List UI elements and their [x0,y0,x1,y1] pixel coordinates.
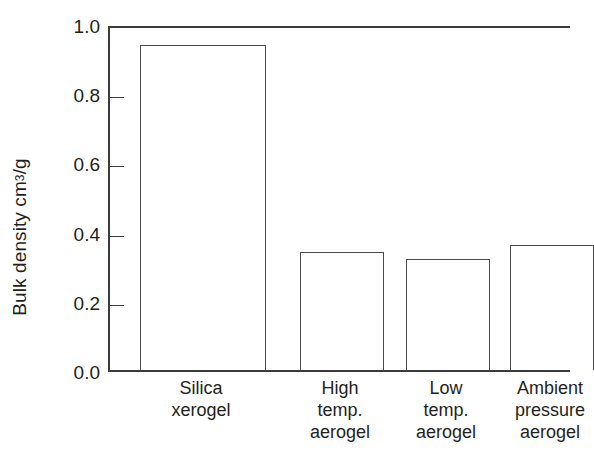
y-axis-tick-label: 0.6 [38,155,100,174]
x-axis-category-label-line: Ambient [485,378,594,400]
x-axis-category-label: Ambientpressureaerogel [485,378,594,444]
y-axis-tick-label: 0.4 [38,224,100,243]
x-axis-category-label: Silicaxerogel [136,378,266,422]
x-axis-category-label-line: xerogel [136,400,266,422]
x-axis-category-label-line: Silica [136,378,266,400]
bar [140,45,266,370]
y-axis-tick-label: 0.8 [38,86,100,105]
y-axis-tick-label: 0.0 [38,363,100,382]
bar-chart: Bulk density cm3/g 0.00.20.40.60.81.0 Si… [0,0,594,474]
y-axis-tick-label: 1.0 [38,17,100,36]
bar [406,259,490,370]
plot-area [108,26,570,372]
x-axis-category-label-line: aerogel [485,422,594,444]
bar [300,252,384,370]
bar [510,245,594,370]
y-axis-title-prefix: Bulk density cm [9,181,31,316]
x-axis-category-label-line: pressure [485,400,594,422]
bars-layer [110,28,570,370]
y-axis-tick-label: 0.2 [38,293,100,312]
y-axis-title: Bulk density cm3/g [0,0,40,474]
y-axis-title-suffix: /g [9,158,31,174]
x-axis-category-labels: SilicaxerogelHightemp.aerogelLowtemp.aer… [108,378,570,474]
y-axis-tick-labels: 0.00.20.40.60.81.0 [38,0,100,474]
